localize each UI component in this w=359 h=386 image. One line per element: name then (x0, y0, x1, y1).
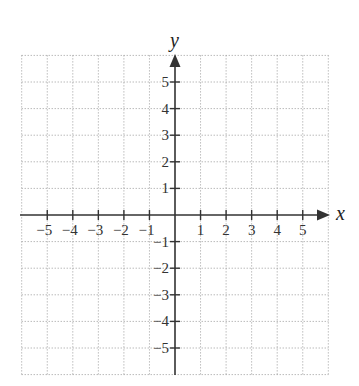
coordinate-plane: x y −5−4−3−2−112345−5−4−3−2−112345 (0, 0, 359, 386)
y-tick-label: −5 (153, 340, 169, 356)
x-tick-label: −3 (87, 222, 103, 238)
y-tick-label: 2 (162, 154, 170, 170)
y-tick-label: −1 (153, 234, 169, 250)
x-axis-arrow-icon (317, 210, 330, 221)
y-tick-label: −4 (153, 313, 169, 329)
x-tick-label: 1 (197, 222, 205, 238)
x-tick-label: −4 (62, 222, 78, 238)
y-tick-label: 1 (162, 180, 170, 196)
x-tick-label: 4 (273, 222, 281, 238)
y-tick-label: −3 (153, 287, 169, 303)
x-tick-label: −2 (113, 222, 129, 238)
axes: x y (20, 29, 345, 375)
y-tick-label: 4 (162, 101, 170, 117)
x-axis-label: x (335, 202, 345, 224)
y-axis-arrow-icon (170, 54, 181, 67)
y-tick-label: 5 (162, 74, 170, 90)
x-tick-label: 5 (299, 222, 307, 238)
x-tick-label: 3 (248, 222, 256, 238)
y-axis-label: y (168, 29, 179, 52)
y-tick-label: −2 (153, 260, 169, 276)
x-tick-label: 2 (222, 222, 230, 238)
x-tick-label: −5 (36, 222, 52, 238)
x-tick-label: −1 (138, 222, 154, 238)
y-tick-label: 3 (162, 127, 170, 143)
